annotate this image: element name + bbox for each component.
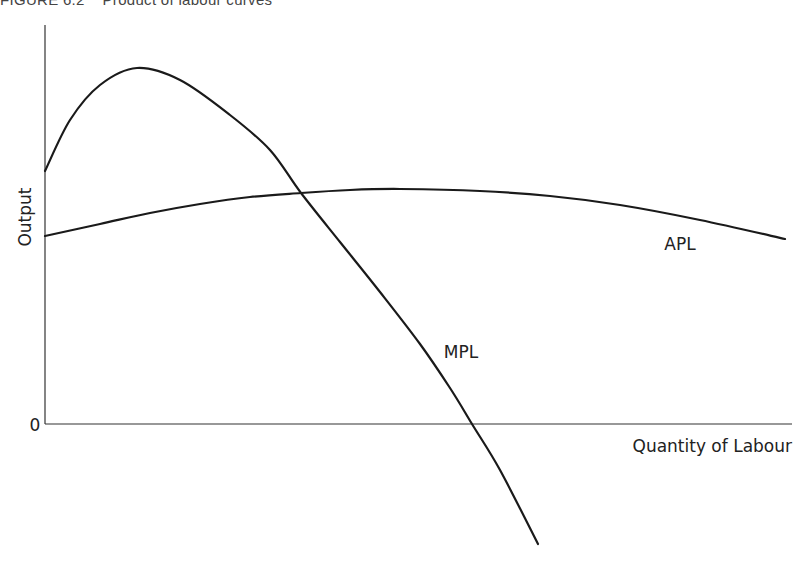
chart-canvas: Output 0 Quantity of Labour APL MPL — [0, 0, 806, 564]
x-axis-label: Quantity of Labour — [633, 436, 793, 456]
mpl-curve — [45, 68, 538, 544]
origin-label: 0 — [30, 415, 41, 435]
mpl-label: MPL — [444, 342, 479, 362]
y-axis-label: Output — [15, 187, 35, 246]
apl-label: APL — [664, 234, 696, 254]
apl-curve — [45, 189, 785, 239]
